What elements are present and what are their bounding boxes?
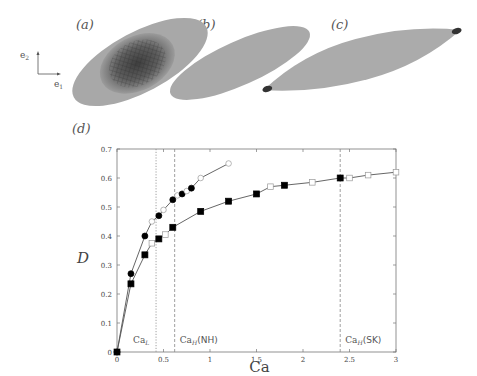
data-point-circle — [170, 197, 176, 203]
y-tick-label: 0.1 — [101, 320, 112, 328]
plot-frame — [117, 149, 396, 352]
threshold-label: CaH(NH) — [180, 335, 218, 346]
data-point-circle — [149, 219, 155, 225]
data-point-square — [156, 236, 162, 242]
threshold-label: CaL — [133, 335, 149, 346]
x-tick-label: 2.5 — [344, 356, 355, 364]
data-point-square — [226, 198, 232, 204]
x-tick-label: 1 — [208, 356, 212, 364]
data-point-square — [254, 191, 260, 197]
data-point-square — [163, 232, 169, 238]
data-point-square — [365, 172, 371, 178]
x-axis-label: Ca — [249, 358, 269, 376]
y-tick-label: 0.2 — [101, 291, 112, 299]
x-tick-label: 3 — [394, 356, 398, 364]
y-tick-label: 0.7 — [101, 146, 112, 154]
data-point-square — [198, 208, 204, 214]
data-point-square — [268, 184, 274, 190]
x-tick-label: 0 — [115, 356, 119, 364]
data-point-circle — [128, 271, 134, 277]
y-tick-label: 0.3 — [101, 262, 112, 270]
data-point-square — [170, 224, 176, 230]
y-tick-label: 0 — [108, 349, 112, 357]
y-axis-label: D — [76, 249, 89, 267]
y-tick-label: 0.4 — [101, 233, 113, 241]
data-point-square — [337, 175, 343, 181]
data-point-square — [128, 281, 134, 287]
x-tick-label: 0.5 — [158, 356, 169, 364]
data-point-circle — [161, 207, 167, 213]
data-point-square — [347, 175, 353, 181]
data-point-circle — [142, 233, 148, 239]
x-tick-label: 2 — [301, 356, 305, 364]
data-point-square — [281, 182, 287, 188]
series-line — [117, 164, 229, 353]
y-tick-label: 0.6 — [101, 175, 113, 183]
data-point-square — [149, 240, 155, 246]
data-point-circle — [226, 161, 232, 167]
data-point-circle — [198, 175, 204, 181]
threshold-label: CaH(SK) — [345, 335, 381, 346]
data-point-square — [393, 169, 399, 175]
data-point-square — [142, 252, 148, 258]
deformation-chart: 00.511.522.5300.10.20.30.40.50.60.7CaDCa… — [0, 0, 477, 376]
data-point-square — [114, 349, 120, 355]
y-tick-label: 0.5 — [101, 204, 112, 212]
data-point-circle — [156, 213, 162, 219]
data-point-circle — [188, 185, 194, 191]
data-point-square — [310, 180, 316, 186]
series-line — [117, 172, 396, 352]
